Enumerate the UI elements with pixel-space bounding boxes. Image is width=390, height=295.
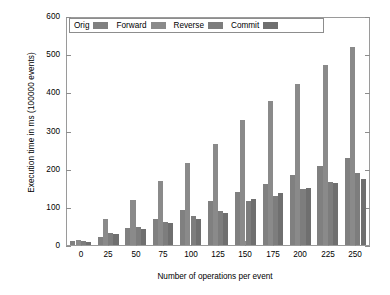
legend-label: Forward	[116, 21, 146, 30]
legend-item-commit: Commit	[231, 21, 278, 30]
legend-swatch-reverse	[208, 22, 223, 29]
y-axis-label: 200	[20, 165, 60, 174]
chart-legend: OrigForwardReverseCommit	[69, 18, 324, 33]
bar-commit-125	[223, 213, 228, 245]
legend-item-reverse: Reverse	[174, 21, 224, 30]
legend-item-orig: Orig	[74, 21, 108, 30]
bar-commit-0	[86, 242, 91, 245]
bars-layer	[67, 18, 369, 245]
bar-commit-100	[196, 219, 201, 246]
bar-commit-150	[251, 199, 256, 246]
y-axis-title: Execution time in ms (100000 events)	[27, 18, 36, 228]
legend-swatch-forward	[151, 22, 166, 29]
y-axis-label: 300	[20, 127, 60, 136]
bar-commit-225	[333, 183, 338, 245]
y-axis-tick	[66, 246, 71, 247]
legend-swatch-orig	[93, 22, 108, 29]
y-axis-label: 0	[20, 241, 60, 250]
bar-commit-175	[278, 193, 283, 245]
y-axis-label: 100	[20, 203, 60, 212]
bar-chart: Execution time in ms (100000 events) 010…	[0, 0, 390, 295]
legend-item-forward: Forward	[116, 21, 165, 30]
bar-commit-250	[361, 179, 366, 245]
y-axis-label: 500	[20, 50, 60, 59]
legend-label: Orig	[74, 21, 89, 30]
x-axis-label: 250	[335, 250, 375, 259]
y-axis-tick	[365, 246, 370, 247]
bar-commit-75	[168, 223, 173, 245]
legend-label: Reverse	[174, 21, 205, 30]
bar-commit-50	[141, 229, 146, 245]
bar-commit-200	[306, 188, 311, 245]
legend-label: Commit	[231, 21, 259, 30]
bar-commit-25	[113, 234, 118, 245]
y-axis-label: 600	[20, 12, 60, 21]
legend-swatch-commit	[263, 22, 278, 29]
y-axis-label: 400	[20, 88, 60, 97]
x-axis-title: Number of operations per event	[60, 272, 370, 281]
